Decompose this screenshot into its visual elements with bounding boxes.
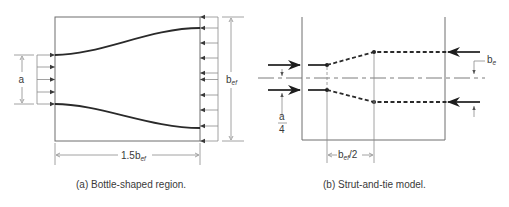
right-distributed-load xyxy=(200,17,218,141)
bottle-lower-curve xyxy=(55,104,200,128)
bottle-upper-curve xyxy=(55,28,200,55)
fraction-numerator: a xyxy=(279,111,285,122)
strut-bottom-dashed xyxy=(327,90,447,102)
label-be: be xyxy=(487,54,497,66)
caption-b: (b) Strut-and-tie model. xyxy=(323,179,426,190)
figure-a-bottle-region: a bef xyxy=(14,17,244,190)
dimension-1-5bef: 1.5bef xyxy=(55,143,200,165)
label-bef: bef xyxy=(226,74,238,86)
dimension-be: be xyxy=(474,54,497,117)
figure-b-strut-and-tie: bef/2 a 4 be (b) Strut-and-tie model. xyxy=(258,17,497,190)
strut-top-dashed xyxy=(327,52,447,65)
dimension-bef-half: bef/2 xyxy=(328,149,373,161)
label-1-5bef: 1.5bef xyxy=(121,150,147,162)
dimension-a: a xyxy=(14,55,34,104)
diagram-canvas: a bef xyxy=(0,0,509,207)
label-a: a xyxy=(19,74,25,85)
region-boundary xyxy=(55,17,200,141)
region-boundary-b xyxy=(302,17,445,140)
dimension-bef-vertical: bef xyxy=(222,17,244,141)
left-distributed-load xyxy=(37,55,55,104)
caption-a: (a) Bottle-shaped region. xyxy=(76,179,186,190)
dimension-a-over-4: a 4 xyxy=(278,69,287,135)
label-bef-half: bef/2 xyxy=(338,149,358,161)
fraction-denominator: 4 xyxy=(279,124,285,135)
